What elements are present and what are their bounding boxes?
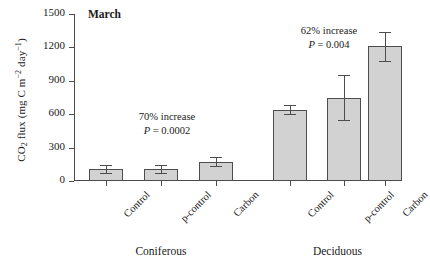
x-axis-category-label: Carbon bbox=[231, 189, 261, 219]
y-axis-tick: 600 bbox=[69, 114, 74, 115]
annotation-p-value: P = 0.004 bbox=[264, 38, 394, 52]
error-bar bbox=[290, 105, 291, 114]
x-axis-tick bbox=[344, 181, 345, 186]
x-axis-tick bbox=[216, 181, 217, 186]
annotation-percent-text: 70% increase bbox=[102, 110, 232, 124]
annotation-p-value: P = 0.0002 bbox=[102, 124, 232, 138]
x-axis-category-label: p-control bbox=[361, 189, 396, 224]
x-axis-category-label: Carbon bbox=[400, 189, 430, 219]
bar bbox=[368, 46, 402, 181]
y-axis-tick: 1200 bbox=[69, 47, 74, 48]
error-bar bbox=[106, 165, 107, 173]
error-bar-cap bbox=[210, 166, 222, 167]
y-axis-title: CO2 flux (mg C m−2 day−1) bbox=[14, 5, 28, 195]
y-axis-title-sup-area: −2 bbox=[14, 70, 23, 79]
x-axis-tick bbox=[290, 181, 291, 186]
y-axis-tick-label: 600 bbox=[49, 106, 66, 118]
y-axis-title-mid2: day bbox=[15, 51, 27, 70]
group-label: Deciduous bbox=[278, 245, 398, 257]
y-axis-tick: 900 bbox=[69, 81, 74, 82]
y-axis-title-prefix: CO bbox=[15, 146, 27, 161]
group-label: Coniferous bbox=[101, 245, 221, 257]
x-axis-tick bbox=[161, 181, 162, 186]
error-bar-cap bbox=[338, 120, 350, 121]
x-axis-category-label: Control bbox=[305, 189, 335, 219]
x-axis-tick bbox=[106, 181, 107, 186]
error-bar-cap bbox=[210, 157, 222, 158]
error-bar-cap bbox=[284, 105, 296, 106]
error-bar bbox=[161, 165, 162, 173]
error-bar-cap bbox=[155, 173, 167, 174]
bar bbox=[273, 110, 307, 181]
plot-area: 030060090012001500 70% increaseP = 0.000… bbox=[74, 14, 400, 181]
x-axis-tick bbox=[385, 181, 386, 186]
y-axis-title-sub: 2 bbox=[20, 142, 29, 146]
y-axis-tick: 300 bbox=[69, 148, 74, 149]
coniferous-annotation: 70% increaseP = 0.0002 bbox=[102, 110, 232, 138]
y-axis-tick: 0 bbox=[69, 181, 74, 182]
error-bar-cap bbox=[155, 165, 167, 166]
error-bar-cap bbox=[379, 61, 391, 62]
y-axis-tick-label: 0 bbox=[60, 173, 66, 185]
y-axis-tick-label: 1200 bbox=[43, 39, 65, 51]
x-axis-category-label: p-control bbox=[178, 189, 213, 224]
error-bar bbox=[216, 157, 217, 166]
y-axis-tick-label: 900 bbox=[49, 73, 66, 85]
x-axis-category-label: Control bbox=[121, 189, 151, 219]
error-bar-cap bbox=[100, 165, 112, 166]
y-axis-tick-label: 1500 bbox=[43, 6, 65, 18]
y-axis-title-suffix: ) bbox=[15, 38, 27, 42]
y-axis-title-sup-day: −1 bbox=[14, 42, 23, 51]
error-bar-cap bbox=[284, 114, 296, 115]
y-axis-tick: 1500 bbox=[69, 14, 74, 15]
annotation-percent-text: 62% increase bbox=[264, 24, 394, 38]
error-bar bbox=[344, 75, 345, 120]
y-axis-title-mid: flux (mg C m bbox=[15, 79, 27, 143]
deciduous-annotation: 62% increaseP = 0.004 bbox=[264, 24, 394, 52]
error-bar-cap bbox=[100, 173, 112, 174]
y-axis-line bbox=[74, 14, 75, 181]
y-axis-tick-label: 300 bbox=[49, 140, 66, 152]
error-bar-cap bbox=[338, 75, 350, 76]
